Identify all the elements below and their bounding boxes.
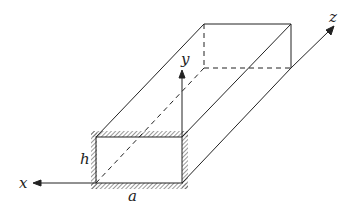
z-axis-line — [291, 31, 329, 68]
y-axis-label: y — [180, 50, 190, 68]
x-axis-label: x — [19, 174, 28, 192]
back-face — [204, 24, 291, 68]
width-label: a — [128, 187, 137, 205]
y-axis-arrow-icon — [179, 70, 185, 78]
x-axis-arrow-icon — [33, 180, 41, 186]
conductor-wall-hatching — [91, 131, 188, 189]
longitudinal-edges — [96, 24, 291, 183]
diagram-canvas: x y z h a — [0, 0, 351, 207]
front-cross-section — [96, 137, 182, 183]
z-axis-label: z — [328, 8, 337, 26]
height-label: h — [80, 150, 90, 168]
waveguide-diagram: x y z h a — [0, 0, 351, 207]
hidden-edges — [96, 24, 291, 183]
z-axis-arrow-icon — [326, 26, 334, 35]
